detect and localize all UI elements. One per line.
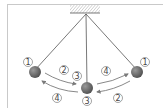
arrow-center-to-right — [97, 74, 128, 84]
label-right-bob: 1 — [142, 58, 147, 67]
arrow-center-to-left — [42, 81, 78, 92]
label-left-bob: 1 — [25, 58, 30, 67]
label-center-bottom: 3 — [84, 97, 89, 106]
label-arrow-right-to-center: 2 — [115, 94, 120, 103]
pendulum-diagram: 1 1 3 3 2 4 4 2 — [0, 0, 164, 108]
arrow-left-to-center — [45, 73, 76, 84]
arrow-right-to-center — [97, 81, 130, 92]
bob-left — [29, 66, 41, 78]
label-arrow-center-to-right: 4 — [103, 67, 108, 76]
label-arrow-left-to-center: 2 — [61, 66, 66, 75]
label-arrow-center-to-left: 4 — [54, 94, 59, 103]
bob-right — [131, 66, 143, 78]
bob-center — [81, 82, 93, 94]
ceiling-support — [70, 5, 100, 13]
label-center-top: 3 — [74, 72, 79, 81]
pendulum-strings — [35, 14, 137, 86]
